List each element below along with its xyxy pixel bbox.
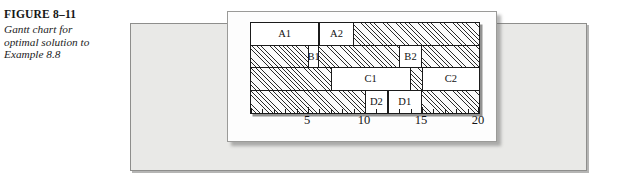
gantt-task-b2: B2 <box>399 46 422 68</box>
gantt-row-b: B1B2 <box>251 46 479 69</box>
figure-panel: A1A2B1B2C1C2D2D1 5101520 <box>227 11 497 142</box>
axis-label-5: 5 <box>304 113 310 128</box>
gantt-row-c: C1C2 <box>251 68 479 91</box>
figure-description-line-2: optimal solution to <box>4 36 122 49</box>
axis-label-20: 20 <box>472 113 485 128</box>
gantt-row-a: A1A2 <box>251 23 479 46</box>
gantt-task-c1: C1 <box>331 68 411 90</box>
figure-description-line-3: Example 8.8 <box>4 48 122 61</box>
axis-label-15: 15 <box>415 113 428 128</box>
figure-description: Gantt chart for optimal solution to Exam… <box>4 23 122 61</box>
axis-label-10: 10 <box>358 113 371 128</box>
gantt-task-c2: C2 <box>422 68 479 90</box>
gantt-task-b1: B1 <box>308 46 319 68</box>
gantt-row-d: D2D1 <box>251 91 479 114</box>
gantt-chart: A1A2B1B2C1C2D2D1 <box>250 22 480 114</box>
gantt-task-a2: A2 <box>319 23 353 45</box>
gantt-time-axis: 5101520 <box>250 113 478 131</box>
figure-description-line-1: Gantt chart for <box>4 23 122 36</box>
gantt-task-a1: A1 <box>251 23 319 45</box>
figure-number: FIGURE 8–11 <box>4 8 122 20</box>
figure-number-text: FIGURE 8–11 <box>4 8 76 20</box>
gantt-task-d1: D1 <box>388 91 422 114</box>
figure-caption: FIGURE 8–11 Gantt chart for optimal solu… <box>4 8 122 61</box>
